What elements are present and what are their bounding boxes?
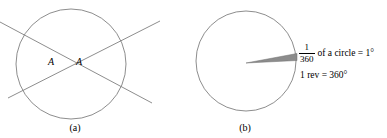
panel-b: 1 360 of a circle = 1° 1 rev = 360° (b) <box>193 0 387 138</box>
panel-b-caption: (b) <box>225 122 265 134</box>
panel-a-caption: (a) <box>55 122 95 134</box>
circle-a <box>16 9 126 119</box>
vertex-label-a-right: A <box>76 57 82 67</box>
vertex-label-a-left: A <box>48 57 54 67</box>
fraction-one-over-360: 1 360 <box>299 43 315 64</box>
panel-a-drawing <box>0 0 193 138</box>
secant-line-ascending <box>8 21 160 98</box>
annotation-line-two-text: 1 rev = 360° <box>300 70 347 81</box>
one-degree-sector <box>246 54 297 64</box>
annotation-line-one-text: of a circle = 1° <box>318 48 375 59</box>
fraction-numerator: 1 <box>303 43 312 53</box>
geometry-figure: A A (a) 1 360 of a circle = 1° 1 rev = 3… <box>0 0 387 138</box>
fraction-denominator: 360 <box>299 54 315 64</box>
panel-a: A A (a) <box>0 0 193 138</box>
annotation-line-one: 1 360 of a circle = 1° <box>299 40 387 66</box>
sector-annotation: 1 360 of a circle = 1° 1 rev = 360° <box>299 40 387 82</box>
annotation-line-two: 1 rev = 360° <box>299 68 387 82</box>
